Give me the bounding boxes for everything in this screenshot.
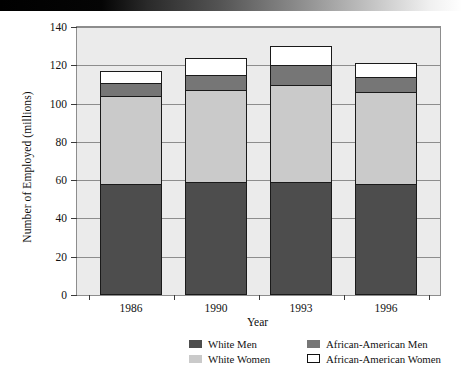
legend-label-african-american-men: African-American Men [326, 338, 428, 350]
bar-1986[interactable] [100, 71, 162, 295]
segment-white-men-1993[interactable] [270, 182, 332, 295]
y-axis-title: Number of Employed (millions) [21, 42, 33, 292]
bar-1996[interactable] [355, 63, 417, 295]
x-tick-3 [344, 295, 345, 300]
y-tick-label-100: 100 [50, 98, 67, 110]
bar-1990[interactable] [185, 58, 247, 295]
y-tick-label-20: 20 [56, 251, 68, 263]
x-tick-1 [174, 295, 175, 300]
header-gradient-strip [0, 0, 462, 11]
legend-item-white-men[interactable]: White Men [189, 336, 307, 351]
x-tick-4 [429, 295, 430, 300]
legend-label-african-american-women: African-American Women [326, 353, 441, 365]
x-tick-0 [89, 295, 90, 300]
segment-african-american-men-1993[interactable] [270, 65, 332, 84]
segment-white-women-1996[interactable] [355, 92, 417, 184]
y-tick-80 [71, 142, 77, 143]
bar-chart-figure: Number of Employed (millions) 140 120 10… [0, 11, 462, 367]
y-tick-label-80: 80 [56, 136, 68, 148]
legend-item-white-women[interactable]: White Women [189, 351, 307, 366]
segment-white-women-1990[interactable] [185, 90, 247, 182]
legend-label-white-women: White Women [208, 353, 270, 365]
y-tick-label-60: 60 [56, 174, 68, 186]
plot-area: 140 120 100 80 60 40 20 0 [76, 26, 441, 296]
segment-white-men-1986[interactable] [100, 184, 162, 295]
y-tick-60 [71, 180, 77, 181]
y-tick-20 [71, 257, 77, 258]
segment-white-men-1990[interactable] [185, 182, 247, 295]
chart-legend: White Men African-American Men White Wom… [189, 336, 451, 366]
segment-african-american-women-1996[interactable] [355, 63, 417, 76]
legend-item-african-american-men[interactable]: African-American Men [307, 336, 451, 351]
y-tick-label-140: 140 [50, 21, 67, 33]
x-axis-title: Year [76, 316, 439, 328]
y-tick-100 [71, 104, 77, 105]
dark-gray-swatch-icon [189, 340, 202, 348]
y-tick-label-0: 0 [61, 289, 67, 301]
legend-item-african-american-women[interactable]: African-American Women [307, 351, 451, 366]
segment-african-american-men-1986[interactable] [100, 83, 162, 96]
x-tick-label-1993: 1993 [261, 302, 341, 314]
segment-african-american-women-1993[interactable] [270, 46, 332, 65]
y-tick-120 [71, 65, 77, 66]
legend-label-white-men: White Men [208, 338, 257, 350]
gridline-140 [77, 27, 440, 28]
segment-african-american-men-1990[interactable] [185, 75, 247, 90]
y-tick-label-120: 120 [50, 59, 67, 71]
segment-african-american-women-1986[interactable] [100, 71, 162, 83]
segment-white-women-1993[interactable] [270, 85, 332, 183]
y-tick-0 [71, 295, 77, 296]
white-outlined-swatch-icon [307, 354, 320, 363]
segment-african-american-women-1990[interactable] [185, 58, 247, 75]
y-tick-40 [71, 218, 77, 219]
x-tick-label-1986: 1986 [91, 302, 171, 314]
x-tick-label-1996: 1996 [346, 302, 426, 314]
bar-1993[interactable] [270, 46, 332, 295]
y-tick-140 [71, 27, 77, 28]
segment-african-american-men-1996[interactable] [355, 77, 417, 92]
segment-white-men-1996[interactable] [355, 184, 417, 295]
medium-gray-swatch-icon [307, 340, 320, 348]
segment-white-women-1986[interactable] [100, 96, 162, 184]
x-tick-label-1990: 1990 [176, 302, 256, 314]
y-tick-label-40: 40 [56, 212, 68, 224]
light-gray-swatch-icon [189, 355, 202, 363]
x-tick-2 [259, 295, 260, 300]
